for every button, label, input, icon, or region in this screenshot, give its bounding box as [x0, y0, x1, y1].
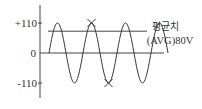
waveform-diagram: +110 0 -110 평균치 (AVG)80V [0, 0, 202, 109]
tick-label-zero: 0 [31, 47, 37, 59]
marker-trough [105, 79, 113, 87]
average-label-value: (AVG)80V [147, 35, 194, 47]
tick-label-neg: -110 [17, 77, 37, 89]
tick-label-pos: +110 [15, 17, 38, 29]
marker-peak [88, 19, 96, 27]
average-label-korean: 평균치 [152, 21, 179, 32]
